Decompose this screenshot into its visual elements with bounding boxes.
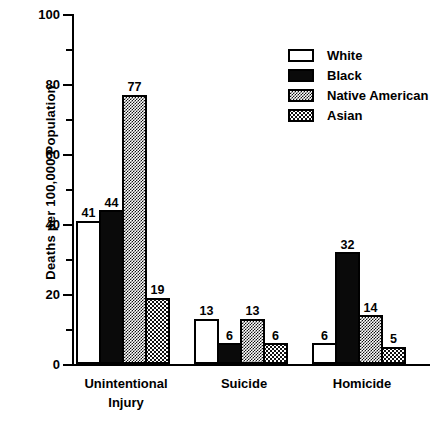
bar-value-label: 13 xyxy=(200,305,214,318)
bar-value-label: 32 xyxy=(341,239,355,252)
x-axis-group-label: Suicide xyxy=(221,375,267,394)
bar-value-label: 19 xyxy=(151,284,165,297)
legend-swatch-white-icon xyxy=(288,49,314,62)
bar-group: 41447719UnintentionalInjury xyxy=(76,14,176,364)
y-tick-mark xyxy=(63,364,72,366)
y-tick-label: 40 xyxy=(46,217,60,232)
y-tick-label: 20 xyxy=(46,287,60,302)
bar-value-label: 14 xyxy=(364,302,378,315)
bars: 41447719 xyxy=(76,14,168,364)
legend-swatch-black-icon xyxy=(288,69,314,82)
bar-value-label: 41 xyxy=(82,207,96,220)
legend-swatch-asian-icon xyxy=(288,109,314,122)
bar-value-label: 5 xyxy=(390,333,397,346)
bar-black: 6 xyxy=(217,343,242,364)
y-tick-mark xyxy=(63,14,72,16)
x-axis-group-label: Homicide xyxy=(333,375,392,394)
legend-label-asian: Asian xyxy=(327,108,362,123)
legend-item-black: Black xyxy=(288,66,428,84)
y-tick-label: 60 xyxy=(46,147,60,162)
legend: White Black Native American Asian xyxy=(288,46,428,126)
bar-native-american: 14 xyxy=(358,315,383,364)
bar-value-label: 6 xyxy=(321,330,328,343)
x-axis-group-label-line: Suicide xyxy=(221,375,267,394)
x-axis-group-label: UnintentionalInjury xyxy=(84,375,167,413)
y-tick-label: 0 xyxy=(53,357,60,372)
y-tick-mark xyxy=(63,224,72,226)
y-tick-mark xyxy=(63,84,72,86)
bar-white: 41 xyxy=(76,221,101,365)
bar-group: 136136Suicide xyxy=(194,14,294,364)
x-axis-group-label-line: Unintentional xyxy=(84,375,167,394)
bar-white: 13 xyxy=(194,319,219,365)
legend-label-native-american: Native American xyxy=(327,88,428,103)
legend-item-asian: Asian xyxy=(288,106,428,124)
bar-value-label: 6 xyxy=(272,330,279,343)
bar-asian: 6 xyxy=(263,343,288,364)
bar-value-label: 13 xyxy=(246,305,260,318)
y-tick-mark xyxy=(63,154,72,156)
bar-asian: 5 xyxy=(381,347,406,365)
legend-label-white: White xyxy=(327,48,362,63)
y-tick-mark xyxy=(63,294,72,296)
y-tick-label: 100 xyxy=(38,7,60,22)
legend-item-white: White xyxy=(288,46,428,64)
y-tick-label: 80 xyxy=(46,77,60,92)
x-axis-line xyxy=(72,364,430,366)
bar-native-american: 77 xyxy=(122,95,147,365)
legend-label-black: Black xyxy=(327,68,362,83)
legend-swatch-native-american-icon xyxy=(288,89,314,102)
bar-value-label: 6 xyxy=(226,330,233,343)
x-axis-group-label-line: Injury xyxy=(84,394,167,413)
legend-item-native-american: Native American xyxy=(288,86,428,104)
bar-native-american: 13 xyxy=(240,319,265,365)
bar-white: 6 xyxy=(312,343,337,364)
bars: 136136 xyxy=(194,14,286,364)
x-axis-group-label-line: Homicide xyxy=(333,375,392,394)
bar-asian: 19 xyxy=(145,298,170,365)
bar-value-label: 44 xyxy=(105,197,119,210)
bar-black: 44 xyxy=(99,210,124,364)
bar-black: 32 xyxy=(335,252,360,364)
bar-chart: Deaths per 100,000 Population 0204060801… xyxy=(0,0,442,423)
bar-value-label: 77 xyxy=(128,81,142,94)
